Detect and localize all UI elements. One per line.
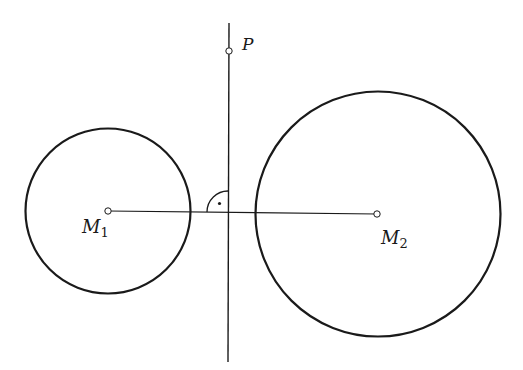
label-m2: M2 — [380, 227, 408, 251]
point-p — [226, 48, 232, 54]
right-angle-arc — [207, 191, 229, 212]
label-m1-main: M — [81, 216, 101, 237]
right-angle-dot — [218, 202, 221, 205]
diagram-canvas: P M1 M2 — [0, 0, 523, 370]
label-m1-sub: 1 — [100, 225, 108, 240]
center-segment — [108, 211, 377, 214]
perpendicular-line — [228, 23, 229, 362]
label-m2-sub: 2 — [399, 236, 407, 251]
point-m1 — [105, 208, 111, 214]
label-m1: M1 — [81, 216, 109, 240]
point-m2 — [374, 211, 380, 217]
label-p: P — [241, 34, 254, 54]
label-m2-main: M — [380, 227, 400, 248]
